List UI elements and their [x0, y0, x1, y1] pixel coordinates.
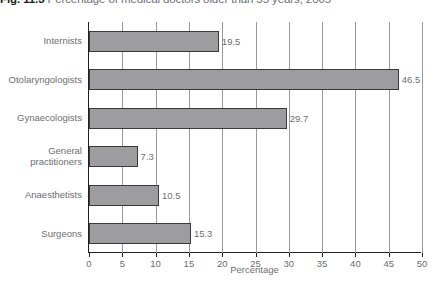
bar: [89, 223, 191, 244]
x-axis-tick: [222, 253, 223, 257]
bar: [89, 185, 159, 206]
plot-area: 0510152025303540455019.546.529.77.310.51…: [88, 22, 421, 253]
gridline: [422, 22, 423, 253]
gridline: [189, 22, 190, 253]
bar: [89, 31, 219, 52]
figure-caption: Percentage of medical doctors older than…: [48, 0, 331, 5]
bar: [89, 69, 399, 90]
category-label: General practitioners: [0, 146, 82, 167]
figure-number: Fig. 11.3: [0, 0, 44, 5]
gridline: [122, 22, 123, 253]
bar-value-label: 29.7: [290, 108, 309, 129]
category-label: Internists: [0, 36, 82, 47]
x-axis-tick: [89, 253, 90, 257]
x-axis-tick: [122, 253, 123, 257]
gridline: [256, 22, 257, 253]
x-axis-tick: [389, 253, 390, 257]
x-axis-tick: [422, 253, 423, 257]
x-axis-title: Percentage: [88, 264, 421, 275]
x-axis-tick: [322, 253, 323, 257]
gridline: [156, 22, 157, 253]
gridline: [322, 22, 323, 253]
bar-value-label: 19.5: [222, 31, 241, 52]
x-axis-tick: [256, 253, 257, 257]
gridline: [355, 22, 356, 253]
bar-value-label: 7.3: [141, 146, 154, 167]
figure-title: Fig. 11.3 Percentage of medical doctors …: [0, 0, 427, 9]
gridline: [289, 22, 290, 253]
bar: [89, 108, 287, 129]
gridline: [389, 22, 390, 253]
x-axis-tick: [189, 253, 190, 257]
bar-value-label: 15.3: [194, 223, 213, 244]
x-axis-tick: [156, 253, 157, 257]
bar-value-label: 46.5: [402, 69, 421, 90]
category-label: Otolaryngologists: [0, 75, 82, 86]
gridline: [222, 22, 223, 253]
bar-chart: 0510152025303540455019.546.529.77.310.51…: [0, 12, 427, 283]
category-label: Anaesthetists: [0, 190, 82, 201]
bar: [89, 146, 138, 167]
category-label: Gynaecologists: [0, 113, 82, 124]
bar-value-label: 10.5: [162, 185, 181, 206]
x-axis-tick: [289, 253, 290, 257]
category-label: Surgeons: [0, 229, 82, 240]
x-axis-tick: [355, 253, 356, 257]
